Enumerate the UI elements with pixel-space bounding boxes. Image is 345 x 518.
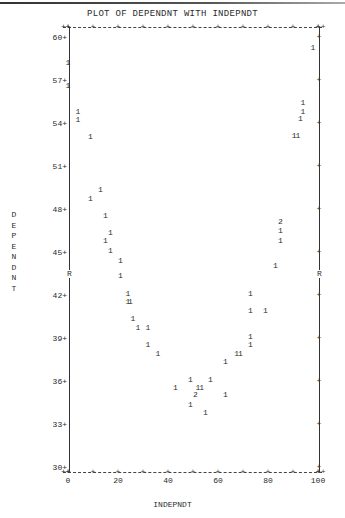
data-point: 1 xyxy=(199,384,204,392)
x-tick-top: + xyxy=(216,23,221,31)
x-tick-label: 0 xyxy=(53,476,83,485)
x-tick-top: + xyxy=(291,23,296,31)
y-tick-label: 42+ xyxy=(41,291,67,300)
data-point: 1 xyxy=(108,247,113,255)
x-axis-title: INDEPNDT xyxy=(0,500,345,509)
data-point: 2 xyxy=(193,391,198,399)
x-tick-top: + xyxy=(116,23,121,31)
data-point: 1 xyxy=(88,195,93,203)
x-tick-bottom: + xyxy=(91,468,96,476)
data-point: 1 xyxy=(278,227,283,235)
x-tick-bottom: + xyxy=(191,468,196,476)
y-tick-label: 54+ xyxy=(41,119,67,128)
top-rule xyxy=(0,2,345,4)
x-tick-bottom: + xyxy=(141,468,146,476)
y-tick-label: 45+ xyxy=(41,248,67,257)
data-point: 1 xyxy=(263,307,268,315)
y-tick-label: 48+ xyxy=(41,205,67,214)
data-point: 1 xyxy=(278,237,283,245)
data-point: 1 xyxy=(173,384,178,392)
data-point: 1 xyxy=(298,115,303,123)
y-tick-right: + xyxy=(317,162,322,170)
data-point: 1 xyxy=(103,237,108,245)
corner-tl: ++ xyxy=(61,23,71,31)
data-point: 1 xyxy=(296,132,301,140)
y-tick-right: + xyxy=(317,33,322,41)
data-point: 1 xyxy=(311,44,316,52)
y-title-letter: E xyxy=(10,221,18,232)
x-tick-bottom: + xyxy=(116,468,121,476)
x-tick-bottom: + xyxy=(166,468,171,476)
data-point: 1 xyxy=(108,229,113,237)
y-tick-label: 39+ xyxy=(41,334,67,343)
y-tick-label: 30+ xyxy=(41,463,67,472)
x-tick-label: 60 xyxy=(203,476,233,485)
x-tick-top: + xyxy=(241,23,246,31)
y-title-letter: N xyxy=(10,273,18,284)
left-axis xyxy=(69,27,70,472)
data-point: 1 xyxy=(118,257,123,265)
y-tick-right: + xyxy=(317,334,322,342)
y-title-letter: T xyxy=(10,284,18,295)
data-point: 1 xyxy=(76,116,81,124)
data-point: 1 xyxy=(223,391,228,399)
y-title-letter: E xyxy=(10,242,18,253)
x-tick-top: + xyxy=(191,23,196,31)
data-point: 1 xyxy=(146,324,151,332)
data-point: 1 xyxy=(273,262,278,270)
y-title-letter: N xyxy=(10,252,18,263)
data-point: 1 xyxy=(248,307,253,315)
y-tick-right: + xyxy=(317,248,322,256)
y-tick-right: + xyxy=(317,76,322,84)
data-point: 1 xyxy=(66,59,71,67)
data-point: 1 xyxy=(238,350,243,358)
data-point: 1 xyxy=(156,350,161,358)
data-point: 1 xyxy=(248,341,253,349)
y-title-letter: P xyxy=(10,231,18,242)
y-tick-right: + xyxy=(317,420,322,428)
y-tick-label: 51+ xyxy=(41,162,67,171)
data-point: 1 xyxy=(188,376,193,384)
data-point: 1 xyxy=(188,401,193,409)
x-tick-bottom: + xyxy=(266,468,271,476)
data-point: 1 xyxy=(66,82,71,90)
x-tick-bottom: + xyxy=(216,468,221,476)
data-point: 1 xyxy=(98,186,103,194)
y-tick-label: 36+ xyxy=(41,377,67,386)
data-point: 1 xyxy=(88,133,93,141)
chart-title: PLOT OF DEPENDNT WITH INDEPNDT xyxy=(0,9,345,19)
x-tick-bottom: + xyxy=(241,468,246,476)
data-point: 1 xyxy=(301,108,306,116)
y-tick-right: + xyxy=(317,119,322,127)
corner-tr: ++ xyxy=(316,23,326,31)
y-tick-right: + xyxy=(317,463,322,471)
data-point: 1 xyxy=(208,376,213,384)
data-point: 1 xyxy=(136,324,141,332)
x-tick-top: + xyxy=(141,23,146,31)
y-axis-title: DEPENDNT xyxy=(10,210,18,294)
y-tick-right: + xyxy=(317,377,322,385)
data-point: 1 xyxy=(248,290,253,298)
reference-marker-left: R xyxy=(67,270,72,278)
x-tick-bottom: + xyxy=(291,468,296,476)
data-point: 1 xyxy=(203,409,208,417)
x-tick-label: 100 xyxy=(303,476,333,485)
y-tick-right: + xyxy=(317,205,322,213)
x-tick-top: + xyxy=(91,23,96,31)
y-tick-label: 60+ xyxy=(41,33,67,42)
x-tick-label: 80 xyxy=(253,476,283,485)
data-point: 1 xyxy=(248,333,253,341)
y-tick-label: 33+ xyxy=(41,420,67,429)
y-title-letter: D xyxy=(10,210,18,221)
data-point: 1 xyxy=(223,358,228,366)
y-title-letter: D xyxy=(10,263,18,274)
data-point: 1 xyxy=(103,212,108,220)
x-tick-top: + xyxy=(266,23,271,31)
data-point: 1 xyxy=(146,341,151,349)
y-tick-label: 57+ xyxy=(41,76,67,85)
x-tick-top: + xyxy=(166,23,171,31)
x-tick-label: 20 xyxy=(103,476,133,485)
y-tick-right: + xyxy=(317,291,322,299)
reference-marker-right: R xyxy=(317,270,322,278)
x-tick-label: 40 xyxy=(153,476,183,485)
